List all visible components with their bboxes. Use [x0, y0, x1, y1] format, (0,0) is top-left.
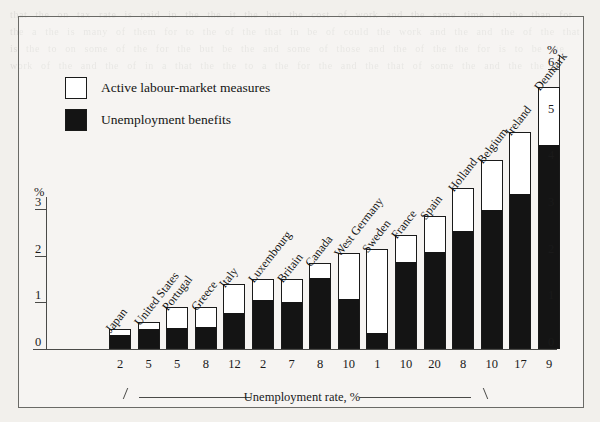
left-axis-line [46, 197, 47, 349]
bar-segment-benefits [224, 313, 244, 348]
bar-segment-benefits [139, 329, 159, 348]
right-axis-tick-label: 5 [548, 103, 554, 116]
bar-segment-benefits [253, 300, 273, 348]
bar-spain [424, 216, 446, 349]
x-tick-value: 20 [420, 357, 450, 372]
x-tick-value: 10 [477, 357, 507, 372]
bar-belgium [481, 160, 503, 349]
x-axis-baseline [33, 349, 557, 350]
legend-item-unemployment-benefits: Unemployment benefits [65, 109, 270, 131]
bar-segment-benefits [339, 299, 359, 348]
x-tick-value: 5 [134, 357, 164, 372]
white-square-icon [65, 77, 87, 99]
left-axis-tick-label: 1 [35, 289, 41, 302]
x-tick-value: 10 [334, 357, 364, 372]
x-tick-value: 2 [248, 357, 278, 372]
right-axis-tick-label: 3 [548, 196, 554, 209]
bar-segment-benefits [282, 302, 302, 348]
x-tick-value: 1 [362, 357, 392, 372]
left-axis-unit-label: % [34, 185, 44, 200]
x-axis-caption: Unemployment rate, % [19, 390, 585, 405]
bar-segment-benefits [196, 327, 216, 348]
left-axis-tick-label: 0 [35, 336, 41, 349]
x-tick-value: 8 [448, 357, 478, 372]
bar-italy [223, 284, 245, 349]
bar-segment-benefits [367, 333, 387, 348]
bar-luxembourg [252, 279, 274, 349]
bar-ireland [509, 132, 531, 349]
x-caption-rule-right [359, 397, 471, 398]
legend-label-unemployment-benefits: Unemployment benefits [101, 112, 231, 128]
legend-label-active-measures: Active labour-market measures [101, 80, 270, 96]
legend-item-active-measures: Active labour-market measures [65, 77, 270, 99]
right-axis-tick-label: 4 [548, 149, 554, 162]
x-tick-value: 12 [219, 357, 249, 372]
right-axis-tick-label: 1 [548, 289, 554, 302]
x-tick-value: 7 [277, 357, 307, 372]
bar-france [395, 235, 417, 349]
x-tick-value: 8 [191, 357, 221, 372]
x-axis-caption-group: Unemployment rate, % [19, 382, 585, 408]
x-tick-value: 17 [505, 357, 535, 372]
bar-segment-benefits [482, 210, 502, 348]
right-axis-tick-label: 2 [548, 243, 554, 256]
x-tick-value: 10 [391, 357, 421, 372]
bar-britain [281, 279, 303, 349]
bar-sweden [366, 249, 388, 349]
left-axis-tick [35, 209, 47, 210]
bar-segment-benefits [396, 262, 416, 348]
bar-canada [309, 263, 331, 349]
bar-holland [452, 188, 474, 349]
x-tick-value: 2 [105, 357, 135, 372]
x-tick-value: 5 [162, 357, 192, 372]
bar-segment-benefits [310, 278, 330, 348]
bar-denmark [538, 87, 560, 349]
chart-legend: Active labour-market measures Unemployme… [65, 77, 270, 141]
bar-west-germany [338, 253, 360, 349]
bar-segment-benefits [167, 328, 187, 348]
left-axis-tick [35, 302, 47, 303]
chart-plot-area: 0123%0123456%Japan2United States5Portuga… [19, 17, 583, 407]
chart-frame: 0123%0123456%Japan2United States5Portuga… [18, 16, 584, 408]
right-axis-tick-label: 0 [548, 336, 554, 349]
black-square-icon [65, 109, 87, 131]
bar-segment-benefits [425, 252, 445, 348]
bar-segment-benefits [110, 335, 130, 348]
left-axis-tick-label: 2 [35, 243, 41, 256]
x-tick-value: 8 [305, 357, 335, 372]
left-axis-tick [35, 256, 47, 257]
x-tick-value: 9 [534, 357, 564, 372]
bar-segment-benefits [453, 231, 473, 348]
bar-segment-benefits [510, 194, 530, 348]
